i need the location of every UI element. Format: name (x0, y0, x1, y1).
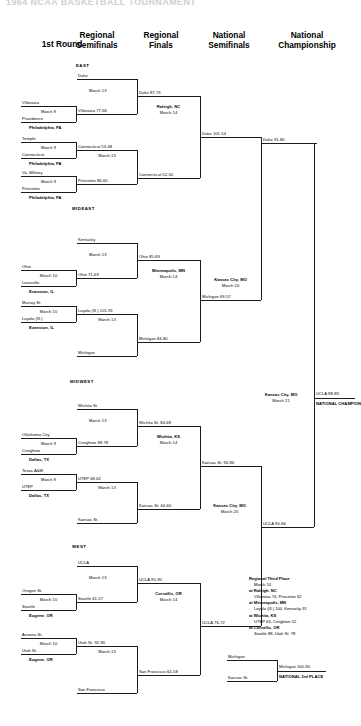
east-r1b-date: March 9 (21, 145, 76, 150)
east-semi-bot-result: Connecticut 52-50 (139, 172, 173, 177)
mideast-seed-michigan-rule (77, 356, 137, 357)
midwest-semi-bot-date: March 13 (77, 485, 137, 490)
east-r1a-top-rule (21, 106, 76, 107)
east-r1c-site: Philadelphia, PA (29, 195, 62, 200)
midwest-r1b-site: Dallas, TX (29, 493, 49, 498)
midwest-final-result: Kansas St. 94-86 (202, 460, 234, 465)
mideast-r1b-site: Evanston, IL (29, 325, 54, 330)
mideast-r1a-bot-rule (21, 286, 76, 287)
third-place-result-1: Loyola (Ill.) 100, Kentucky 91 (249, 606, 307, 612)
midwest-r1a-result-rule (77, 446, 137, 447)
east-r1b-team1: Temple (22, 136, 36, 141)
mideast-r1a-team2: Louisville (22, 280, 39, 285)
national-final-join (314, 143, 315, 527)
mideast-final-result: Michigan 69-57 (202, 294, 231, 299)
east-r1c-top-rule (21, 176, 76, 177)
midwest-semi-top-date: March 13 (89, 418, 106, 423)
west-r1b-top-rule (21, 638, 76, 639)
east-semi-bot-date: March 13 (77, 153, 137, 158)
west-semi-top-result-rule (138, 583, 200, 584)
midwest-r1a-result: Creighton 89-78 (78, 440, 108, 445)
mideast-semi2-join (137, 314, 138, 356)
east-r1a-bot-rule (21, 122, 76, 123)
mideast-r1b-date: March 10 (21, 309, 76, 314)
west-final-join (200, 583, 201, 675)
west-r1a-site: Eugene, OR (29, 613, 53, 618)
midwest-semi-top-result: Wichita St. 84-68 (139, 420, 171, 425)
national-semi1-result-rule (262, 143, 317, 144)
column-header-national-championship-line2: Championship (262, 41, 352, 51)
midwest-final-result-rule (201, 466, 261, 467)
east-r1c-team2: Princeton (22, 186, 40, 191)
midwest-r1b-result: UTEP 68-62 (78, 476, 101, 481)
national-semi1-site: Kansas City, MO (200, 277, 261, 282)
national-semi2-result-rule (262, 527, 314, 528)
national-semi2-site: Kansas City, MO (198, 503, 261, 508)
east-r1a-result: Villanova 77-66 (78, 108, 107, 113)
midwest-semi-bot-result-rule (138, 509, 200, 510)
column-header-regional-semifinals: Regional Semifinals (57, 31, 137, 50)
west-r1a-team2: Seattle (22, 604, 35, 609)
east-r1a-date: March 9 (21, 109, 76, 114)
mideast-semi-top-result: Ohio 85-69 (139, 254, 160, 259)
mideast-final-site: Minneapolis, MN (137, 268, 200, 273)
column-header-regional-finals-line2: Finals (126, 41, 196, 51)
east-r1c-bot-rule (21, 192, 76, 193)
west-r1b-date: March 10 (21, 641, 76, 646)
mideast-r1a-date: March 10 (21, 273, 76, 278)
west-r1a-bot-rule (21, 610, 76, 611)
national-third-bot-rule (227, 681, 277, 682)
east-seed-duke-rule (77, 79, 137, 80)
west-semi-top-result: UCLA 95-90 (139, 577, 162, 582)
west-r1a-top-rule (21, 594, 76, 595)
east-r1a-site: Philadelphia, PA (29, 125, 62, 130)
east-final-result-rule (201, 137, 261, 138)
third-place-result-3: Seattle 88, Utah St. 78 (249, 631, 307, 637)
national-champion-caption: NATIONAL CHAMPION (316, 401, 361, 406)
mideast-semi-top-result-rule (138, 260, 200, 261)
national-third-team-bottom: Kansas St. (228, 675, 248, 680)
east-r1a-team2: Providence (22, 116, 43, 121)
midwest-r1b-date: March 9 (21, 477, 76, 482)
west-seed-ucla-rule (77, 566, 137, 567)
west-r1a-date: March 10 (21, 597, 76, 602)
column-header-national-semifinals: National Semifinals (191, 31, 267, 50)
national-champion-result: UCLA 98-83 (316, 391, 339, 396)
east-final-date: March 14 (137, 110, 200, 115)
column-header-regional-finals: Regional Finals (126, 31, 196, 50)
midwest-r1a-site: Dallas, TX (29, 457, 49, 462)
east-r1c-date: March 9 (21, 179, 76, 184)
east-r1c-result-rule (77, 184, 137, 185)
west-r1a-result: Seattle 61-57 (78, 596, 103, 601)
region-label-midwest: MIDWEST (70, 379, 94, 384)
east-r1c-team1: Va. Military (22, 170, 43, 175)
west-seed-sanfran: San Francisco (78, 687, 105, 692)
midwest-r1a-team2: Creighton (22, 448, 40, 453)
midwest-r1b-bot-rule (21, 490, 76, 491)
midwest-r1a-top-rule (21, 438, 76, 439)
midwest-semi-bot-result: Kansas St. 64-60 (139, 503, 171, 508)
west-semi-bot-result: San Francisco 64-58 (139, 669, 178, 674)
west-semi-bot-date: March 13 (77, 649, 137, 654)
column-header-national-semifinals-line2: Semifinals (191, 41, 267, 51)
national-semi1-result: Duke 91-80 (263, 137, 285, 142)
national-final-date: March 21 (250, 398, 312, 403)
mideast-r1b-result: Loyola (Ill.) 101-91 (78, 308, 113, 313)
region-label-west: WEST (72, 544, 86, 549)
column-header-regional-semifinals-line2: Semifinals (57, 41, 137, 51)
region-label-east: EAST (76, 63, 89, 68)
west-semi2-join (137, 646, 138, 693)
west-final-site: Corvallis, OR (137, 591, 200, 596)
midwest-r1b-team2: UTEP (22, 484, 33, 489)
midwest-r1a-team1: Oklahoma City (22, 432, 50, 437)
mideast-final-result-rule (201, 300, 261, 301)
mideast-r1a-site: Evanston, IL (29, 289, 54, 294)
national-semi2-date: March 20 (198, 509, 261, 514)
national-third-top-rule (227, 660, 277, 661)
east-final-site: Raleigh, NC (137, 104, 200, 109)
mideast-semi-bot-date: March 13 (77, 317, 137, 322)
east-r1b-team2: Connecticut (22, 152, 44, 157)
region-label-mideast: MIDEAST (72, 206, 95, 211)
midwest-r1b-result-rule (77, 482, 137, 483)
